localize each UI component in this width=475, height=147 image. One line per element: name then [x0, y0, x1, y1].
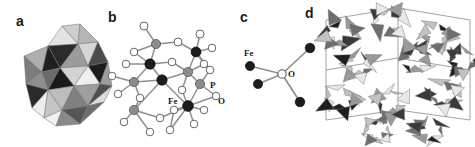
atom-fe [145, 59, 155, 69]
fe-o-bond [282, 48, 310, 74]
polyhedron-face [333, 55, 351, 66]
atom-o [278, 70, 286, 78]
atom-p [129, 105, 138, 114]
atom-fe [295, 97, 305, 107]
atom-fe [157, 75, 167, 85]
atom-p [183, 67, 192, 76]
atom-o [196, 30, 204, 38]
polyhedron-face [78, 24, 98, 44]
polyhedral-cluster [333, 48, 382, 85]
fe-o-bond [250, 66, 282, 74]
atom-label-fe: Fe [168, 96, 178, 106]
polyhedral-cluster [361, 115, 393, 146]
atom-o [114, 90, 122, 98]
atom-label-p: P [210, 80, 216, 90]
polyhedron-face [419, 54, 431, 67]
polyhedron-face [325, 85, 345, 91]
panel-letter-c: c [240, 10, 248, 24]
atom-fe [245, 61, 254, 70]
atom-o [136, 94, 144, 102]
polyhedron-face [397, 89, 410, 104]
atom-o [140, 22, 148, 30]
polyhedron-face [460, 45, 474, 56]
atom-o [168, 58, 176, 66]
atom-o [190, 120, 198, 128]
polyhedron-face [468, 62, 475, 69]
polyhedron-face [371, 24, 384, 42]
panel-c-oxygen-centered-fe4: FeO [236, 30, 324, 114]
panel-d [318, 2, 475, 147]
atom-o [130, 48, 138, 56]
atom-o [122, 60, 130, 68]
atom-o [208, 44, 216, 52]
atom-o [166, 126, 174, 134]
atom-fe [191, 47, 201, 57]
polyhedron-face [437, 103, 451, 117]
polyhedron-face [420, 65, 436, 73]
polyhedral-cluster [314, 9, 365, 51]
panel-a-polyhedral-cluster [18, 22, 118, 132]
polyhedral-cluster [398, 38, 436, 73]
atom-label-o: O [288, 69, 295, 79]
atom-p [151, 39, 160, 48]
polyhedron-face [446, 50, 459, 60]
polyhedron-face [403, 64, 411, 73]
panel-letter-d: d [305, 6, 314, 20]
polyhedron-face [439, 125, 443, 135]
polyhedron-face [390, 91, 403, 94]
atom-p [195, 79, 204, 88]
polyhedral-cluster [415, 79, 465, 117]
atom-o [174, 38, 182, 46]
atom-o [200, 106, 208, 114]
panel-letter-b: b [108, 10, 117, 24]
atom-o [206, 66, 214, 74]
polyhedral-cluster [370, 3, 411, 42]
atom-o [146, 128, 154, 136]
panel-b-ball-and-stick-cluster: FePO [104, 12, 230, 144]
panel-a [18, 22, 106, 126]
atom-o [178, 86, 186, 94]
atom-o [108, 72, 116, 80]
atom-o [120, 118, 128, 126]
atom-label-fe: Fe [244, 48, 254, 58]
polyhedron-face [382, 84, 394, 95]
unit-cell-edge [326, 58, 398, 70]
polyhedron-face [316, 98, 335, 111]
unit-cell-edge [398, 8, 470, 20]
atom-label-o: O [218, 96, 225, 106]
panel-d-extended-framework [318, 2, 475, 147]
polyhedral-cluster [446, 43, 475, 81]
polyhedron-face [326, 87, 330, 100]
atom-o [170, 106, 178, 114]
panel-letter-a: a [16, 14, 24, 28]
panel-c: FeO [236, 30, 324, 112]
atom-p [129, 77, 138, 86]
atom-fe [305, 43, 315, 53]
atom-o [156, 114, 164, 122]
panel-b: FePO [104, 12, 226, 142]
atom-o [200, 60, 208, 68]
polyhedron-face [415, 89, 431, 102]
polyhedron-face [386, 126, 390, 134]
polyhedral-cluster [405, 116, 450, 146]
figure-container: a FePO b FeO c d [0, 0, 475, 147]
atom-fe [253, 79, 262, 88]
atom-fe [183, 101, 194, 112]
